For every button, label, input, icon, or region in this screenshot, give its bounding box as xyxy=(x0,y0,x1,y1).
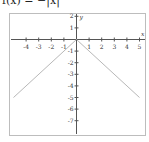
y-tick-label: -3 xyxy=(68,70,74,77)
y-tick-label: -5 xyxy=(68,94,74,101)
y-tick-label: -7 xyxy=(68,117,74,124)
x-tick-label: -4 xyxy=(23,43,29,50)
y-tick-label: -1 xyxy=(68,47,74,54)
x-tick-label: 5 xyxy=(138,43,142,50)
x-tick-label: -2 xyxy=(48,43,54,50)
y-tick-label: -6 xyxy=(68,105,74,112)
y-axis-label: y xyxy=(79,13,84,21)
y-tick-label: -4 xyxy=(68,82,74,89)
y-tick-label: -2 xyxy=(68,59,74,66)
x-tick-label: -3 xyxy=(36,43,42,50)
plot-area: -4-3-2-11234521-1-2-3-4-5-6-7xy xyxy=(0,0,149,142)
x-axis-label: x xyxy=(141,30,145,37)
y-tick-label: 1 xyxy=(70,24,74,31)
x-tick-label: 2 xyxy=(100,43,104,50)
x-tick-label: 4 xyxy=(125,43,129,50)
x-tick-label: 1 xyxy=(87,43,91,50)
x-tick-label: -1 xyxy=(61,43,67,50)
x-tick-label: 3 xyxy=(112,43,116,50)
y-tick-label: 2 xyxy=(70,12,74,19)
